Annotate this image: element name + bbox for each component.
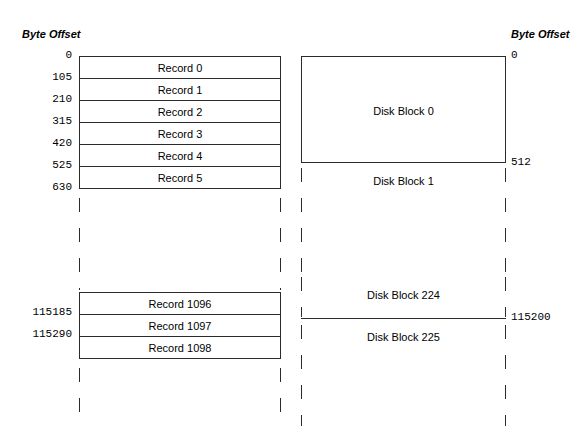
left-offset-525: 525 [0, 159, 72, 171]
record-row: Record 1 [80, 79, 280, 101]
left-offset-630: 630 [0, 181, 72, 193]
right-byte-offset-header: Byte Offset [511, 28, 569, 40]
disk-block-224-label: Disk Block 224 [301, 289, 506, 301]
disk-block-1-label: Disk Block 1 [301, 175, 506, 187]
record-row: Record 1097 [80, 315, 280, 337]
right-offset-0: 0 [511, 49, 518, 61]
record-row: Record 0 [80, 57, 280, 79]
record-row: Record 3 [80, 123, 280, 145]
record-row: Record 5 [80, 167, 280, 189]
left-trailing-dash-left [79, 368, 80, 426]
left-continuation-dash-right [280, 198, 281, 290]
left-offset-315: 315 [0, 115, 72, 127]
left-offset-105: 105 [0, 71, 72, 83]
left-offset-420: 420 [0, 137, 72, 149]
left-offset-115185: 115185 [0, 306, 72, 318]
disk-block-0-label: Disk Block 0 [302, 105, 505, 117]
record-row: Record 4 [80, 145, 280, 167]
right-offset-512: 512 [511, 156, 531, 168]
left-offset-210: 210 [0, 93, 72, 105]
disk-block-225-label: Disk Block 225 [301, 331, 506, 343]
left-offset-115290: 115290 [0, 328, 72, 340]
disk-block-0-box: Disk Block 0 [301, 56, 506, 163]
record-row: Record 1096 [80, 293, 280, 315]
record-group-top: Record 0 Record 1 Record 2 Record 3 Reco… [79, 56, 281, 189]
left-offset-0: 0 [0, 49, 72, 61]
left-continuation-dash-left [79, 198, 80, 290]
right-offset-115200: 115200 [511, 311, 551, 323]
left-byte-offset-header: Byte Offset [22, 28, 80, 40]
record-group-bottom: Record 1096 Record 1097 Record 1098 [79, 292, 281, 359]
block-boundary-115200 [301, 318, 506, 319]
left-trailing-dash-right [280, 368, 281, 426]
record-row: Record 1098 [80, 337, 280, 359]
record-row: Record 2 [80, 101, 280, 123]
diagram-canvas: Byte Offset 0 105 210 315 420 525 630 Re… [0, 0, 587, 443]
